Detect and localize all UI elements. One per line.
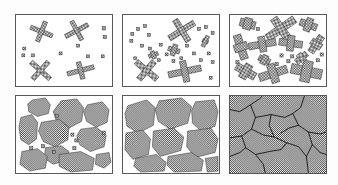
figure-panel-sequence (0, 0, 338, 185)
panel-1-stage (16, 15, 112, 86)
panel-3-stage (230, 15, 326, 86)
panel-6-svg (230, 96, 326, 173)
panel-4-grains (19, 98, 111, 172)
panel-2-stage (123, 15, 219, 86)
panel-4-stage (16, 96, 112, 173)
panel-4[interactable] (15, 95, 113, 174)
panel-5[interactable] (122, 95, 220, 174)
panel-1-svg (16, 15, 112, 86)
panel-2-svg (123, 15, 219, 86)
panel-5-stage (123, 96, 219, 173)
panel-5-svg (123, 96, 219, 173)
panel-3-svg (230, 15, 326, 86)
panel-3[interactable] (229, 14, 327, 87)
panel-grid (15, 14, 327, 174)
panel-6-stage (230, 96, 326, 173)
panel-6[interactable] (229, 95, 327, 174)
panel-1[interactable] (15, 14, 113, 87)
panel-2[interactable] (122, 14, 220, 87)
panel-4-svg (16, 96, 112, 173)
